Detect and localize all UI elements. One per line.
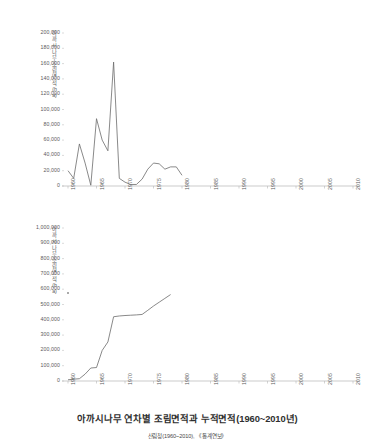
x-axis-tick-label: 1995: [270, 373, 276, 385]
x-axis-tick-label: 2005: [327, 178, 333, 190]
x-axis-tick-label: 2000: [298, 178, 304, 190]
x-axis-tick-label: 1960: [70, 178, 76, 190]
data-series-line: [68, 62, 182, 185]
x-axis-tick-label: 1970: [127, 373, 133, 385]
data-series-line: [68, 295, 171, 380]
x-axis-tick-label: 1960: [70, 373, 76, 385]
cumulative-afforestation-chart: 0100,000200,000300,000400,000500,000600,…: [0, 215, 375, 405]
figure-caption: 아까시나무 연차별 조림면적과 누적면적(1960~2010년): [0, 411, 375, 425]
x-axis-tick-label: 1965: [99, 178, 105, 190]
x-axis-tick-label: 1975: [156, 373, 162, 385]
x-axis-tick-label: 2010: [355, 373, 361, 385]
x-axis-tick-label: 2005: [327, 373, 333, 385]
x-axis-tick-label: 1970: [127, 178, 133, 190]
x-axis-tick-label: 1995: [270, 178, 276, 190]
x-axis-tick-label: 1985: [213, 373, 219, 385]
x-axis-tick-label: 1980: [184, 373, 190, 385]
chart-figure: 020,00040,00060,00080,000100,000120,0001…: [0, 0, 375, 446]
x-axis-tick-label: 2000: [298, 373, 304, 385]
x-axis-tick-label: 1980: [184, 178, 190, 190]
x-axis-tick-label: 2010: [355, 178, 361, 190]
x-axis-tick-label: 1975: [156, 178, 162, 190]
annual-afforestation-chart: 020,00040,00060,00080,000100,000120,0001…: [0, 0, 375, 215]
x-axis-tick-label: 1990: [241, 373, 247, 385]
figure-source: 산림청(1960~2010), 《통계연보》: [0, 432, 375, 440]
x-axis-tick-label: 1990: [241, 178, 247, 190]
x-axis-tick-label: 1985: [213, 178, 219, 190]
x-axis-tick-label: 1965: [99, 373, 105, 385]
